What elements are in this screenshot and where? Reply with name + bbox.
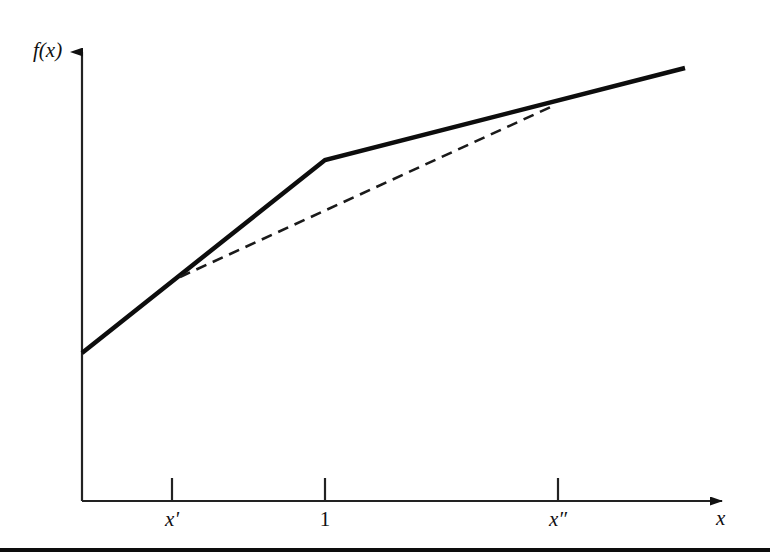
tick-label-one: 1 <box>312 509 338 530</box>
y-axis-label: f(x) <box>33 40 62 61</box>
plot-canvas <box>0 0 770 556</box>
bottom-rule-divider <box>0 548 770 552</box>
tick-label-x-prime: x' <box>158 509 186 530</box>
x-axis-label: x <box>716 508 725 529</box>
tick-label-x-double-prime: x″ <box>542 509 574 530</box>
figure-container: f(x) x x' 1 x″ <box>0 0 770 556</box>
chord-dashed <box>180 105 555 277</box>
function-curve-solid <box>82 68 685 353</box>
